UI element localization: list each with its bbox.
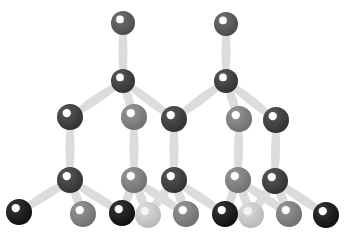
highlight xyxy=(141,207,149,215)
atom-dark xyxy=(262,168,288,194)
atoms-layer xyxy=(6,11,339,228)
atom-dark xyxy=(111,69,135,93)
highlight xyxy=(12,204,20,212)
atom-medium xyxy=(121,104,147,130)
highlight xyxy=(167,111,175,119)
atom-dark xyxy=(214,69,238,93)
highlight xyxy=(127,109,135,117)
highlight xyxy=(167,172,175,180)
highlight xyxy=(127,172,135,180)
highlight xyxy=(232,111,240,119)
atom-light xyxy=(238,202,264,228)
highlight xyxy=(282,206,290,214)
atom-dark xyxy=(161,167,187,193)
highlight xyxy=(218,206,226,214)
atom-medium xyxy=(70,201,96,227)
highlight xyxy=(115,205,123,213)
atom-black xyxy=(313,202,339,228)
highlight xyxy=(268,173,276,181)
atom-black xyxy=(109,200,135,226)
atom-dark xyxy=(57,104,83,130)
atom-medium xyxy=(173,201,199,227)
highlight xyxy=(116,74,124,82)
highlight xyxy=(76,206,84,214)
highlight xyxy=(116,16,124,24)
highlight xyxy=(319,207,327,215)
highlight xyxy=(179,206,187,214)
atom-medium xyxy=(276,201,302,227)
highlight xyxy=(269,112,277,120)
atom-medium xyxy=(226,106,252,132)
atom-top xyxy=(214,12,238,36)
crystal-lattice-diagram xyxy=(0,0,345,234)
highlight xyxy=(244,207,252,215)
lattice-svg xyxy=(0,0,345,234)
highlight xyxy=(63,109,71,117)
atom-dark xyxy=(263,107,289,133)
highlight xyxy=(219,74,227,82)
atom-black xyxy=(212,201,238,227)
atom-top xyxy=(111,11,135,35)
atom-medium xyxy=(225,167,251,193)
highlight xyxy=(219,17,227,25)
atom-medium xyxy=(121,167,147,193)
highlight xyxy=(231,172,239,180)
atom-black xyxy=(6,199,32,225)
highlight xyxy=(63,172,71,180)
atom-dark xyxy=(161,106,187,132)
atom-light xyxy=(135,202,161,228)
atom-dark xyxy=(57,167,83,193)
